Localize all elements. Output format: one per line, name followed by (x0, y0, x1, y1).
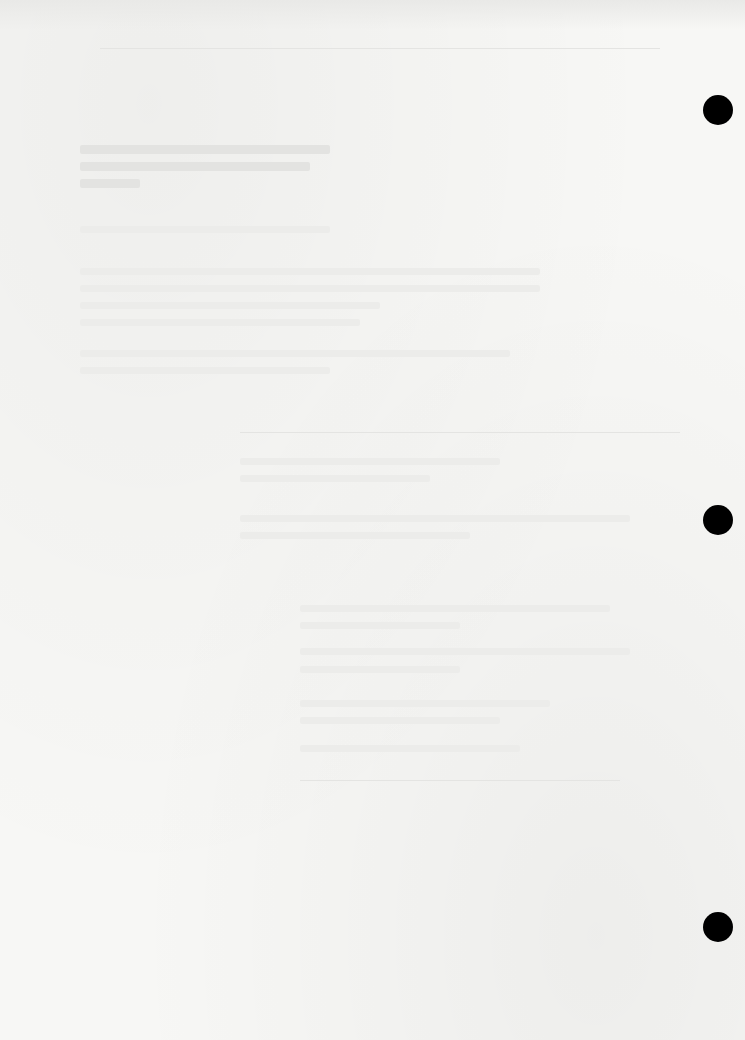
illegible-text-line (300, 717, 500, 724)
punch-hole (703, 912, 733, 942)
illegible-text-line (80, 162, 310, 171)
illegible-text-line (80, 367, 330, 374)
illegible-text-line (300, 648, 630, 655)
divider-rule (240, 432, 680, 433)
illegible-text-line (80, 145, 330, 154)
illegible-text-line (80, 226, 330, 233)
illegible-text-line (80, 302, 380, 309)
illegible-text-line (300, 622, 460, 629)
scan-edge-shadow (0, 0, 745, 30)
illegible-text-line (300, 605, 610, 612)
illegible-text-line (80, 179, 140, 188)
illegible-text-line (240, 515, 630, 522)
illegible-text-line (240, 458, 500, 465)
illegible-text-line (80, 319, 360, 326)
illegible-text-line (80, 268, 540, 275)
divider-rule (300, 780, 620, 781)
punch-hole (703, 505, 733, 535)
paper-page (0, 0, 745, 1040)
illegible-text-line (240, 532, 470, 539)
illegible-text-line (240, 475, 430, 482)
illegible-text-line (80, 285, 540, 292)
illegible-text-line (300, 745, 520, 752)
illegible-text-line (80, 350, 510, 357)
punch-hole (703, 95, 733, 125)
illegible-text-line (300, 666, 460, 673)
divider-rule (100, 48, 660, 49)
illegible-text-line (300, 700, 550, 707)
